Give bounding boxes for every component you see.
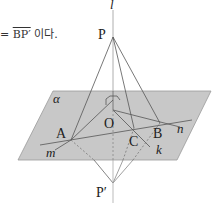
label-n: n <box>177 121 184 136</box>
label-O: O <box>104 116 114 131</box>
segment-AP-prime <box>94 160 113 183</box>
label-A: A <box>56 126 67 141</box>
label-k: k <box>156 142 162 157</box>
label-P: P <box>98 27 106 42</box>
label-C: C <box>129 134 138 149</box>
geometry-diagram: l P α O A B C m n k P′ <box>0 0 218 203</box>
segment-CP-prime <box>113 160 123 183</box>
label-m: m <box>46 145 55 160</box>
label-B: B <box>153 126 162 141</box>
label-alpha: α <box>53 91 61 106</box>
label-l: l <box>110 0 114 12</box>
segment-BP-prime <box>113 160 133 183</box>
label-P-prime: P′ <box>96 185 107 200</box>
